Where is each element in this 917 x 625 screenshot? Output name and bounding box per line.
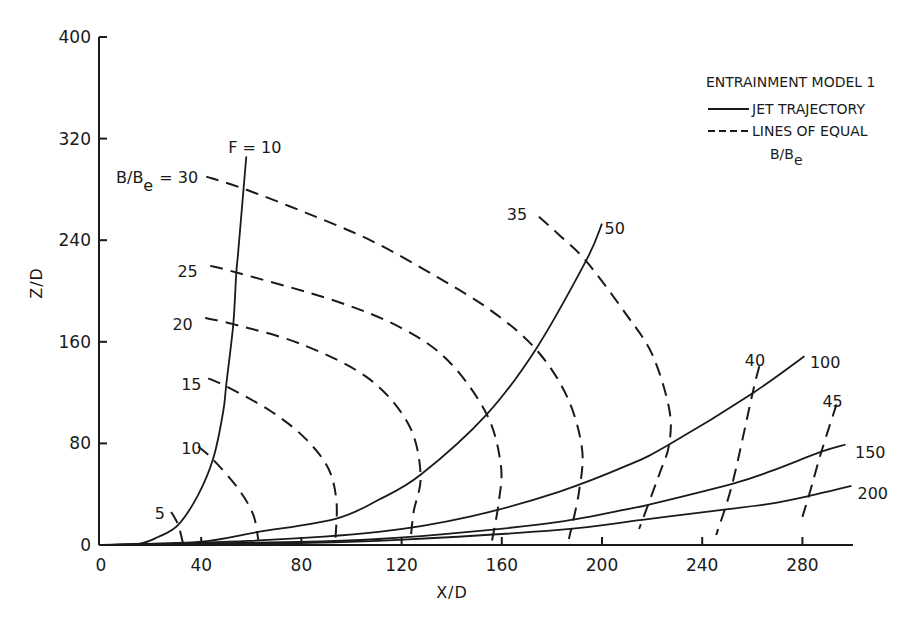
jet-trajectory-line [101, 157, 246, 546]
equal-b-label: 15 [181, 375, 201, 394]
equal-b-line [198, 447, 258, 540]
legend: ENTRAINMENT MODEL 1 JET TRAJECTORY LINES… [706, 74, 876, 168]
x-tick-label: 240 [686, 555, 718, 575]
legend-label-equal: LINES OF EQUAL [752, 123, 868, 139]
y-tick-label: 160 [59, 332, 91, 352]
trajectory-label: F = 10 [228, 138, 281, 157]
equal-b-line [208, 378, 337, 539]
x-tick-label: 200 [586, 555, 618, 575]
trajectory-label: 50 [605, 219, 625, 238]
b-subscript: e [143, 176, 153, 195]
equal-b-label: 10 [181, 439, 201, 458]
chart-canvas: 080160240320400 04080120160200240280 X/D… [0, 0, 917, 625]
x-tick-label: 280 [786, 555, 818, 575]
b-ratio-text: B/B [116, 168, 143, 187]
equal-b-lines [171, 177, 836, 544]
x-tick-label: 120 [385, 555, 417, 575]
y-axis-title: Z/D [27, 267, 46, 299]
y-tick-label: 400 [59, 27, 91, 47]
x-axis-title: X/D [436, 583, 468, 602]
equal-b-label: 45 [822, 392, 842, 411]
legend-label-trajectory: JET TRAJECTORY [751, 101, 865, 117]
equal-b-line [539, 217, 671, 529]
trajectory-label: 150 [855, 443, 886, 462]
y-tick-label: 320 [59, 129, 91, 149]
b-value: = 30 [159, 168, 198, 187]
legend-label-equal-b: B/Be [770, 146, 803, 168]
jet-trajectory-line [101, 224, 602, 545]
equal-b-line [802, 404, 836, 517]
legend-b-subscript: e [794, 152, 803, 168]
y-tick-label: 80 [69, 433, 91, 453]
y-tick-label: 240 [59, 230, 91, 250]
equal-b-label: 20 [172, 315, 192, 334]
legend-b-ratio: B/B [770, 146, 794, 162]
x-tick-label: 40 [190, 555, 212, 575]
x-tick-label: 0 [96, 555, 107, 575]
equal-b-label: 25 [177, 262, 197, 281]
equal-b-line [210, 266, 501, 542]
equal-b-line [171, 512, 183, 544]
trajectory-label: 200 [858, 484, 889, 503]
axes: 080160240320400 04080120160200240280 X/D… [27, 27, 853, 602]
equal-b-line [206, 177, 582, 539]
legend-title: ENTRAINMENT MODEL 1 [706, 74, 876, 90]
equal-b-label: 5 [155, 504, 165, 523]
equal-b-line [205, 318, 420, 540]
jet-trajectory-line [101, 356, 804, 545]
equal-b-label: B/Be= 30 [116, 168, 198, 195]
x-tick-label: 80 [291, 555, 313, 575]
equal-b-label: 35 [507, 205, 527, 224]
y-tick-label: 0 [80, 535, 91, 555]
trajectory-label: 100 [810, 353, 841, 372]
x-tick-label: 160 [486, 555, 518, 575]
jet-trajectories [101, 157, 852, 546]
equal-b-label: 40 [745, 351, 765, 370]
